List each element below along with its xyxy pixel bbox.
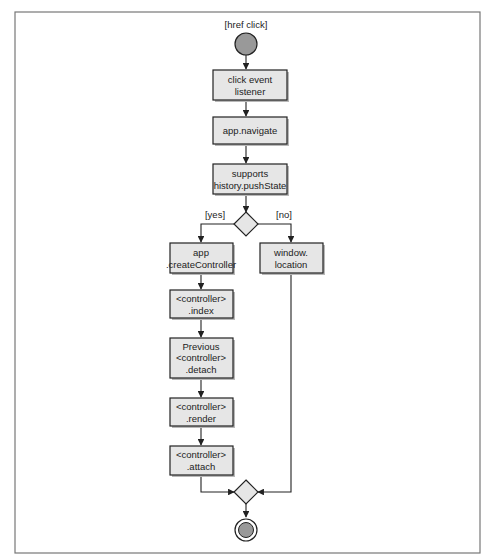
svg-text:.detach: .detach xyxy=(185,364,216,375)
svg-text:location: location xyxy=(275,259,308,270)
svg-text:app: app xyxy=(193,247,209,258)
guard-no: [no] xyxy=(276,209,292,220)
action-controller-index: <controller> .index xyxy=(170,290,235,320)
svg-text:<controller>: <controller> xyxy=(176,401,227,412)
svg-text:click event: click event xyxy=(228,74,273,85)
svg-text:history.pushState: history.pushState xyxy=(214,180,287,191)
action-create-controller: app .createController xyxy=(166,243,236,275)
merge-node xyxy=(234,480,258,504)
end-node xyxy=(235,519,257,541)
decision-node xyxy=(234,212,258,236)
svg-text:<controller>: <controller> xyxy=(176,352,227,363)
action-previous-controller-detach: Previous <controller> .detach xyxy=(170,338,235,380)
svg-text:.render: .render xyxy=(186,413,216,424)
svg-text:Previous: Previous xyxy=(183,341,220,352)
action-app-navigate: app.navigate xyxy=(213,117,289,146)
svg-text:.index: .index xyxy=(188,305,214,316)
activity-diagram: [href click] [yes] [no] click event list… xyxy=(0,0,490,560)
start-node xyxy=(235,33,257,55)
svg-text:app.navigate: app.navigate xyxy=(223,125,277,136)
svg-text:<controller>: <controller> xyxy=(176,449,227,460)
action-controller-render: <controller> .render xyxy=(170,398,235,428)
svg-text:window.: window. xyxy=(273,247,308,258)
action-click-event-listener: click event listener xyxy=(213,70,289,102)
start-label: [href click] xyxy=(225,19,268,30)
action-controller-attach: <controller> .attach xyxy=(170,446,235,477)
svg-text:supports: supports xyxy=(232,168,269,179)
svg-text:listener: listener xyxy=(235,86,266,97)
action-window-location: window. location xyxy=(260,243,325,275)
guard-yes: [yes] xyxy=(205,209,225,220)
action-supports-pushstate: supports history.pushState xyxy=(213,164,289,196)
svg-text:.attach: .attach xyxy=(187,461,216,472)
svg-text:<controller>: <controller> xyxy=(176,293,227,304)
svg-text:.createController: .createController xyxy=(166,259,236,270)
